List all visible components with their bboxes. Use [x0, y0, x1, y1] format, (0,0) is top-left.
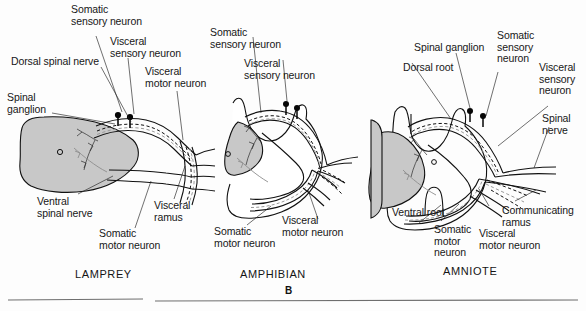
- label-dorsal-spinal-nerve-lamprey: Dorsal spinal nerve: [11, 56, 99, 68]
- lamprey-sensory-cell-bodies: [115, 112, 133, 128]
- leader-communicating-ramus-amniote: [515, 190, 536, 201]
- label-line: Somatic: [214, 225, 251, 237]
- label-communicating-ramus-amniote: Communicatingramus: [502, 205, 574, 228]
- label-visceral-sensory-neuron-amniote: Visceralsensoryneuron: [539, 62, 575, 97]
- label-line: neuron: [497, 52, 529, 64]
- amniote-sensory-cell-bodies: [467, 108, 486, 127]
- label-line: sensory neuron: [110, 47, 181, 59]
- label-somatic-sensory-neuron-amphibian: Somaticsensory neuron: [210, 27, 281, 50]
- label-somatic-sensory-neuron-lamprey: Somaticsensory neuron: [71, 4, 142, 27]
- label-visceral-ramus-lamprey: Visceralramus: [154, 200, 190, 223]
- label-line: Visceral: [154, 199, 190, 211]
- label-line: Spinal: [542, 112, 571, 124]
- leader-visceral-sensory-amniote: [498, 106, 548, 146]
- label-ventral-spinal-nerve-lamprey: Ventralspinal nerve: [37, 196, 92, 219]
- label-somatic-motor-neuron-amphibian: Somaticmotor neuron: [214, 226, 275, 249]
- amphibian-sensory-cell-bodies: [283, 101, 300, 119]
- lamprey-drawing: [20, 112, 215, 205]
- label-line: sensory: [539, 73, 575, 85]
- label-line: ramus: [502, 216, 531, 228]
- label-line: Ventral root: [392, 206, 445, 218]
- label-visceral-motor-neuron-amniote: Visceralmotor neuron: [479, 228, 540, 251]
- label-line: motor neuron: [214, 237, 275, 249]
- leader-somatic-motor-lamprey: [135, 181, 151, 228]
- label-line: motor: [434, 235, 460, 247]
- label-line: Dorsal spinal nerve: [11, 55, 99, 67]
- leader-somatic-sensory-amniote: [486, 72, 498, 116]
- label-ventral-root-amniote: Ventral root: [392, 207, 445, 219]
- label-somatic-motor-neuron-amniote: Somaticmotorneuron: [434, 224, 471, 259]
- label-line: Somatic: [497, 29, 534, 41]
- label-line: spinal nerve: [37, 207, 92, 219]
- amniote-gray-matter-left: [371, 120, 382, 218]
- label-line: nerve: [542, 124, 568, 136]
- leader-visceral-motor-lamprey: [177, 91, 183, 140]
- label-line: Somatic: [71, 3, 108, 15]
- label-spinal-ganglion-lamprey: Spinalganglion: [7, 92, 46, 115]
- label-line: Spinal ganglion: [414, 41, 484, 53]
- label-line: ganglion: [7, 103, 46, 115]
- label-line: neuron: [539, 84, 571, 96]
- label-line: Visceral: [479, 227, 515, 239]
- panel-title-amphibian: AMPHIBIAN: [240, 268, 306, 280]
- label-dorsal-root-amniote: Dorsal root: [403, 62, 453, 74]
- label-line: sensory neuron: [210, 38, 281, 50]
- panel-letter-b: B: [285, 285, 292, 296]
- leader-spinal-ganglion-amniote: [456, 53, 470, 108]
- panel-title-lamprey: LAMPREY: [75, 268, 132, 280]
- label-line: Visceral: [145, 65, 181, 77]
- label-spinal-ganglion-amniote: Spinal ganglion: [414, 42, 484, 54]
- label-line: Visceral: [110, 35, 146, 47]
- label-line: sensory: [497, 41, 533, 53]
- amphibian-drawing: [225, 98, 358, 218]
- label-somatic-motor-neuron-lamprey: Somaticmotor neuron: [99, 228, 160, 251]
- label-visceral-sensory-neuron-amphibian: Visceralsensory neuron: [244, 58, 315, 81]
- label-line: motor neuron: [479, 239, 540, 251]
- label-line: Somatic: [434, 223, 471, 235]
- label-line: Visceral: [282, 214, 318, 226]
- label-line: Visceral: [539, 61, 575, 73]
- label-visceral-motor-neuron-lamprey: Visceralmotor neuron: [145, 66, 206, 89]
- label-line: sensory neuron: [244, 69, 315, 81]
- label-line: Somatic: [210, 26, 247, 38]
- label-line: neuron: [434, 246, 466, 258]
- label-line: Dorsal root: [403, 61, 453, 73]
- label-visceral-motor-neuron-amphibian: Visceralmotor neuron: [282, 215, 343, 238]
- label-line: Visceral: [244, 57, 280, 69]
- leader-visceral-sensory-lamprey: [128, 58, 134, 114]
- leader-visceral-ramus-lamprey: [174, 166, 185, 199]
- label-line: Communicating: [502, 204, 574, 216]
- comparative-neuroanatomy-figure: Somaticsensory neuron Visceralsensory ne…: [0, 0, 586, 311]
- panel-title-amniote: AMNIOTE: [443, 265, 497, 277]
- label-visceral-sensory-neuron-lamprey: Visceralsensory neuron: [110, 36, 181, 59]
- label-line: ramus: [154, 211, 183, 223]
- footer-rule-right: [155, 300, 578, 301]
- label-spinal-nerve-amniote: Spinalnerve: [542, 113, 571, 136]
- label-line: Somatic: [99, 227, 136, 239]
- label-somatic-sensory-neuron-amniote: Somaticsensoryneuron: [497, 30, 534, 65]
- label-line: sensory neuron: [71, 15, 142, 27]
- label-line: motor neuron: [282, 226, 343, 238]
- leader-visceral-motor-amniote: [479, 189, 489, 206]
- label-line: Spinal: [7, 91, 36, 103]
- label-line: Ventral: [37, 195, 69, 207]
- label-line: motor neuron: [99, 239, 160, 251]
- footer-rule-left: [8, 299, 143, 300]
- label-line: motor neuron: [145, 77, 206, 89]
